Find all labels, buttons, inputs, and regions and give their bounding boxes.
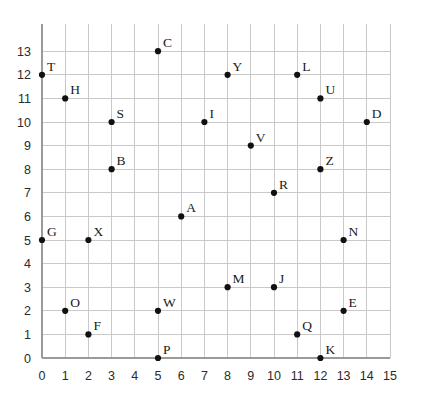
data-point-marker	[271, 190, 277, 196]
data-point-label: B	[117, 153, 126, 168]
data-point-marker	[201, 119, 207, 125]
data-point-label: N	[349, 224, 359, 239]
data-point-marker	[364, 119, 370, 125]
data-point-label: Y	[233, 59, 243, 74]
data-point-label: E	[349, 295, 357, 310]
data-point-marker	[317, 166, 323, 172]
y-tick-label: 4	[24, 257, 31, 271]
data-point-marker	[155, 308, 161, 314]
x-tick-label: 5	[155, 369, 162, 383]
y-tick-label: 12	[17, 68, 31, 82]
data-point-label: T	[47, 59, 56, 74]
data-point-label: P	[163, 342, 171, 357]
y-tick-label: 13	[17, 45, 31, 59]
data-point-marker	[317, 95, 323, 101]
data-point-label: F	[93, 318, 101, 333]
data-point-marker	[39, 237, 45, 243]
data-point-marker	[294, 72, 300, 78]
data-point-marker	[85, 331, 91, 337]
y-axis-tick-labels: 012345678910111213	[17, 45, 31, 366]
data-point-marker	[341, 308, 347, 314]
x-tick-label: 11	[291, 369, 304, 383]
y-tick-label: 8	[24, 163, 31, 177]
data-point-label: I	[209, 106, 214, 121]
x-tick-label: 1	[62, 369, 69, 383]
y-tick-label: 0	[24, 352, 31, 366]
grid-lines	[42, 24, 390, 358]
data-point-marker	[109, 166, 115, 172]
data-point-marker	[178, 213, 184, 219]
y-tick-label: 10	[17, 116, 31, 130]
data-point-marker	[271, 284, 277, 290]
data-point-label: V	[256, 130, 266, 145]
x-tick-label: 7	[201, 369, 208, 383]
x-tick-label: 15	[383, 369, 397, 383]
y-tick-label: 6	[24, 210, 31, 224]
y-tick-label: 5	[24, 234, 31, 248]
data-point-marker	[155, 355, 161, 361]
data-point-label: M	[233, 271, 245, 286]
data-point-label: W	[163, 295, 176, 310]
x-tick-label: 4	[131, 369, 138, 383]
data-point-label: Z	[325, 153, 333, 168]
x-tick-label: 13	[337, 369, 351, 383]
data-point-label: X	[93, 224, 103, 239]
data-point-marker	[62, 308, 68, 314]
data-point-marker	[39, 72, 45, 78]
y-tick-label: 2	[24, 304, 31, 318]
y-tick-label: 9	[24, 139, 31, 153]
y-tick-label: 1	[24, 328, 31, 342]
data-point-label: D	[372, 106, 382, 121]
data-point-label: R	[279, 177, 288, 192]
data-point-label: L	[302, 59, 310, 74]
y-tick-label: 3	[24, 281, 31, 295]
x-tick-label: 0	[39, 369, 46, 383]
data-point-label: J	[279, 271, 284, 286]
x-tick-label: 9	[247, 369, 254, 383]
data-point-marker	[85, 237, 91, 243]
data-point-marker	[317, 355, 323, 361]
data-point-label: G	[47, 224, 57, 239]
y-tick-label: 11	[18, 92, 31, 106]
data-points: ABCDEFGHIJKLMNOPQRSTUVWXYZ	[39, 35, 382, 361]
scatter-plot-figure: 012345678910111213 012345678910111213141…	[0, 0, 430, 408]
data-point-marker	[62, 95, 68, 101]
data-point-marker	[155, 48, 161, 54]
data-point-marker	[248, 143, 254, 149]
data-point-label: U	[325, 82, 335, 97]
x-tick-label: 2	[85, 369, 92, 383]
data-point-marker	[109, 119, 115, 125]
x-tick-label: 12	[313, 369, 327, 383]
data-point-label: K	[325, 342, 335, 357]
data-point-label: O	[70, 295, 80, 310]
data-point-label: A	[186, 200, 196, 215]
x-tick-label: 14	[360, 369, 374, 383]
x-tick-label: 6	[178, 369, 185, 383]
data-point-label: C	[163, 35, 172, 50]
x-tick-label: 3	[108, 369, 115, 383]
scatter-plot-canvas: 012345678910111213 012345678910111213141…	[0, 0, 430, 408]
data-point-marker	[341, 237, 347, 243]
x-tick-label: 8	[224, 369, 231, 383]
x-axis-tick-labels: 0123456789101112131415	[39, 369, 397, 383]
data-point-label: H	[70, 82, 80, 97]
data-point-marker	[225, 72, 231, 78]
data-point-marker	[294, 331, 300, 337]
x-tick-label: 10	[267, 369, 281, 383]
data-point-marker	[225, 284, 231, 290]
y-tick-label: 7	[24, 186, 31, 200]
data-point-label: S	[117, 106, 125, 121]
data-point-label: Q	[302, 318, 312, 333]
